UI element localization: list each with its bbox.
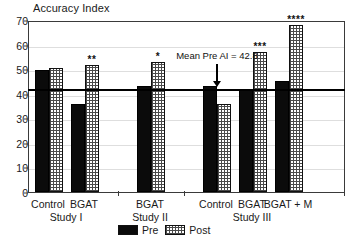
legend-swatch-post [165,225,185,235]
legend-item: Pre [118,224,158,236]
legend-item: Post [165,224,210,236]
plot-area: **********Mean Pre AI = 42.8 [28,21,345,193]
bar-post [85,65,99,192]
x-axis-study-label: Study II [132,211,168,223]
y-axis-tick [24,45,28,46]
y-axis-tick [24,70,28,71]
legend-swatch-pre [118,225,138,235]
bar-pre [275,81,289,192]
x-axis-condition-label: BGAT + M [264,198,312,210]
significance-marker: * [156,52,160,62]
bar-post [151,62,165,192]
x-axis-end-tick [344,191,345,196]
bar-pre [203,86,217,192]
y-axis-tick [24,193,28,194]
x-axis-group-separator [184,191,185,196]
legend-label: Post [189,224,210,236]
bar-post [49,68,63,192]
bar-pre [71,104,85,192]
mean-reference-label: Mean Pre AI = 42.8 [176,50,258,61]
bar-post [253,52,267,192]
x-axis-condition-label: BGAT [238,198,266,210]
legend: PrePost [118,224,210,236]
significance-marker: ** [88,55,97,65]
x-axis-study-label: Study III [233,211,272,223]
y-axis-tick [24,168,28,169]
x-axis-study-label: Study I [50,211,83,223]
x-axis-condition-label: Control [199,198,233,210]
x-axis-condition-label: BGAT [70,198,98,210]
legend-label: Pre [142,224,158,236]
x-axis-group-separator [118,191,119,196]
x-axis-condition-label: Control [31,198,65,210]
y-axis-tick [24,119,28,120]
bar-post [217,104,231,192]
y-axis-tick [24,21,28,22]
significance-marker: **** [287,15,305,25]
bar-pre [137,86,151,192]
bar-post [289,25,303,192]
x-axis-condition-label: BGAT [136,198,164,210]
chart-title: Accuracy Index [33,2,110,14]
mean-reference-line [28,89,345,91]
accuracy-index-bar-chart: Accuracy Index 010203040506070 *********… [0,0,355,243]
bar-pre [239,89,253,192]
y-axis-tick [24,94,28,95]
y-axis: 010203040506070 [0,0,28,243]
y-axis-tick [24,143,28,144]
